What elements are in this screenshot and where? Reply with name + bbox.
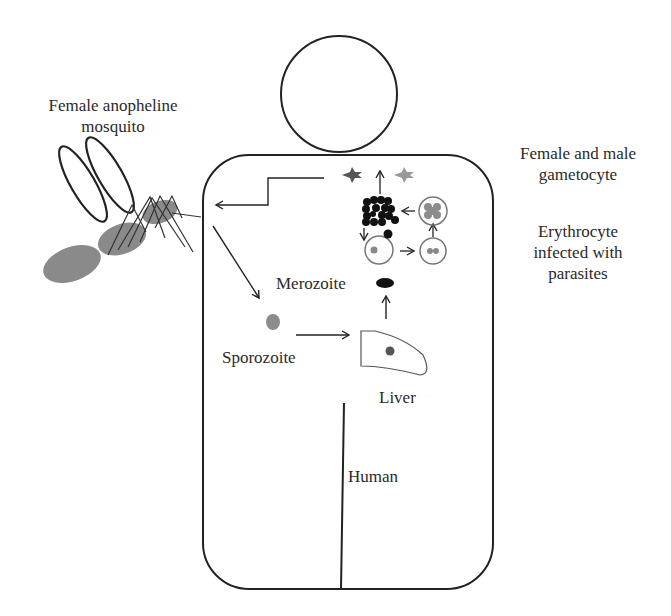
schizont-cluster-icon [424,203,441,219]
arrow-gametocyte-to-mosquito [216,178,324,205]
erythrocyte-label-line1: Erythrocyte [488,221,668,242]
human-head [281,36,397,152]
rupturing-schizont-icon [362,196,399,226]
ring-parasite-icon [371,247,378,254]
mosquito-label-line1: Female anopheline [28,95,198,116]
mosquito-label: Female anopheline mosquito [28,95,198,137]
trophozoite-nucleus-icon [427,248,433,254]
malaria-life-cycle-diagram: Female anopheline mosquito Female and ma… [0,0,671,616]
gametocyte-label-line1: Female and male [488,143,668,164]
mosquito-abdomen [38,238,106,290]
mosquito-label-line2: mosquito [28,116,198,137]
mosquito-icon [38,132,201,290]
leg-divider-line [341,403,344,589]
liver-parasite-icon [386,347,395,356]
gametocyte-label: Female and male gametocyte [488,143,668,185]
merozoite-icon [376,278,394,288]
erythrocyte-label-line3: parasites [488,263,668,284]
trophozoite-nucleus-icon [433,248,439,254]
erythrocyte-label-line2: infected with [488,242,668,263]
liver-label: Liver [379,387,416,408]
human-label: Human [348,466,398,487]
sporozoite-icon [266,314,280,330]
gametocyte-label-line2: gametocyte [488,164,668,185]
erythrocyte-ring-icon [365,236,393,264]
female-gametocyte-icon [342,167,362,183]
human-body [203,155,493,589]
sporozoite-label: Sporozoite [222,347,296,368]
diagram-graphics [0,0,671,616]
merozoite-label: Merozoite [276,273,346,294]
released-merozoite-icon [384,230,393,239]
mosquito-wing-icon [51,141,115,227]
male-gametocyte-icon [394,167,414,183]
arrow-mosquito-to-sporozoite [213,226,259,298]
erythrocyte-label: Erythrocyte infected with parasites [488,221,668,284]
